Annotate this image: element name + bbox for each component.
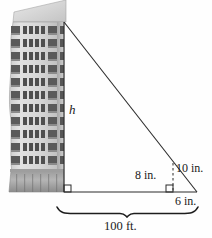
small-vertical-label: 8 in.: [135, 169, 156, 181]
height-label: h: [69, 103, 76, 116]
right-angle-mark-small: [166, 185, 173, 192]
small-hypotenuse-label: 10 in.: [176, 162, 203, 174]
right-angle-mark-building: [64, 185, 71, 192]
ground-distance-label: 100 ft.: [104, 220, 137, 233]
ground-distance-brace: [57, 207, 198, 217]
small-base-label: 6 in.: [175, 195, 196, 207]
similar-triangles-figure: h 8 in. 10 in. 6 in. 100 ft.: [0, 0, 212, 238]
